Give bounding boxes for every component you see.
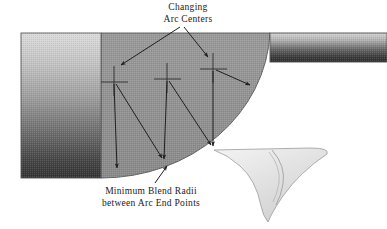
label-minimum-blend-radii: Minimum Blend Radii between Arc End Poin… — [56, 186, 246, 209]
right-arm-texture — [270, 33, 387, 62]
left-block-texture — [21, 33, 101, 178]
label-changing-arc-centers: Changing Arc Centers — [118, 2, 258, 25]
left-block — [21, 33, 101, 178]
blend-fin — [214, 148, 327, 222]
label-minimum-blend-radii-line2: between Arc End Points — [56, 198, 246, 210]
engineering-diagram-figure: Changing Arc Centers Minimum Blend Radii… — [0, 0, 387, 229]
label-changing-arc-centers-line2: Arc Centers — [118, 14, 258, 26]
right-arm — [270, 33, 387, 62]
blend-fin-shape — [214, 148, 327, 222]
label-changing-arc-centers-line1: Changing — [118, 2, 258, 14]
label-minimum-blend-radii-line1: Minimum Blend Radii — [56, 186, 246, 198]
